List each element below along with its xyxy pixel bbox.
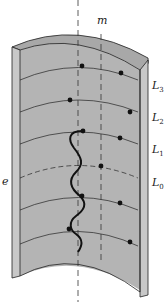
right-wall bbox=[140, 60, 148, 297]
cylinder-drawing bbox=[0, 0, 167, 302]
label-L2: L2 bbox=[152, 112, 164, 126]
left-wall bbox=[12, 47, 20, 278]
label-e: e bbox=[2, 176, 9, 187]
label-L0: L0 bbox=[152, 177, 164, 191]
cylinder-diagram: m e L3 L2 L1 L0 bbox=[0, 0, 167, 302]
label-L1: L1 bbox=[152, 144, 164, 158]
label-m: m bbox=[97, 15, 107, 26]
label-L3: L3 bbox=[152, 80, 164, 94]
